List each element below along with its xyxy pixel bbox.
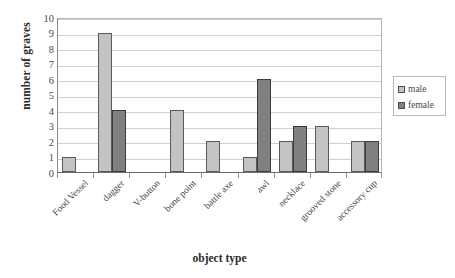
bar-female-dagger (112, 110, 126, 172)
bars-layer (58, 19, 381, 172)
bar-male-necklace (279, 141, 293, 172)
bar-male-battle-axe (206, 141, 220, 172)
x-axis-tick-label: bone point (128, 178, 199, 249)
legend-item-female: female (398, 98, 445, 112)
bar-group (94, 19, 130, 172)
plot-area (57, 18, 382, 173)
legend-item-male: male (398, 82, 445, 96)
bar-group (239, 19, 275, 172)
legend-label: male (408, 84, 426, 94)
bar-group (347, 19, 383, 172)
y-axis-tick-label: 10 (34, 13, 54, 24)
bar-male-bone-point (170, 110, 184, 172)
bar-female-awl (257, 79, 271, 172)
bar-group (275, 19, 311, 172)
y-axis-tick-label: 6 (34, 75, 54, 86)
bar-male-dagger (98, 33, 112, 173)
y-axis-tick-label: 5 (34, 90, 54, 101)
x-axis-tick-label: Food Vessel (19, 178, 90, 249)
x-axis-tick-labels: Food VesseldaggerV-buttonbone pointbattl… (57, 178, 397, 248)
x-axis-tick-label: battle axe (164, 178, 235, 249)
bar-group (130, 19, 166, 172)
bar-group (311, 19, 347, 172)
bar-group (202, 19, 238, 172)
bar-female-necklace (293, 126, 307, 173)
y-axis-tick-label: 8 (34, 44, 54, 55)
bar-group (166, 19, 202, 172)
legend-swatch-male-icon (398, 86, 405, 93)
y-axis-tick-labels: 012345678910 (34, 12, 54, 172)
x-axis-tick-label: awl (200, 178, 271, 249)
x-axis-title: object type (57, 252, 382, 264)
legend: malefemale (393, 76, 446, 116)
y-axis-tick-label: 9 (34, 28, 54, 39)
bar-female-accessory-cup (365, 141, 379, 172)
bar-chart: number of graves 012345678910 Food Vesse… (0, 0, 455, 278)
legend-swatch-female-icon (398, 102, 405, 109)
x-axis-tick-label: V-button (92, 178, 163, 249)
bar-male-grooved-stone (315, 126, 329, 173)
y-axis-tick-label: 3 (34, 121, 54, 132)
bar-male-accessory-cup (351, 141, 365, 172)
x-axis-tick-label: dagger (56, 178, 127, 249)
y-axis-tick-label: 2 (34, 137, 54, 148)
x-axis-tick-label: necklace (236, 178, 307, 249)
bar-male-food-vessel (62, 157, 76, 173)
y-axis-tick-label: 0 (34, 168, 54, 179)
y-axis-tick-label: 7 (34, 59, 54, 70)
y-axis-tick-label: 1 (34, 152, 54, 163)
x-axis-tick-label: grooved stone (272, 178, 343, 249)
bar-male-awl (243, 157, 257, 173)
x-axis-tick-label: accessory cup (308, 178, 379, 249)
y-axis-tick-label: 4 (34, 106, 54, 117)
legend-label: female (408, 100, 434, 110)
bar-group (58, 19, 94, 172)
